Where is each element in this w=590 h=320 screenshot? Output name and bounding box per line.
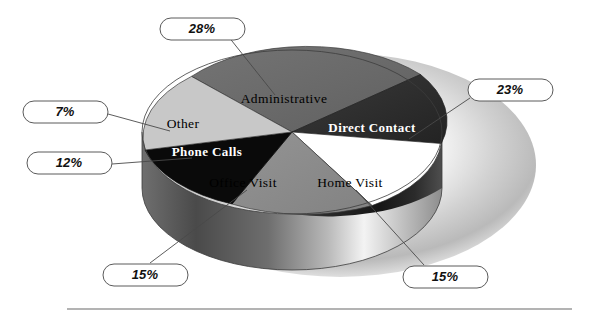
callout-administrative[interactable]: 28% [160, 18, 245, 40]
callout-value-direct-contact: 23% [496, 82, 524, 97]
callout-value-home-visit: 15% [432, 269, 459, 284]
slice-label-phone-calls: Phone Calls [172, 144, 243, 159]
chart-page: Administrative Direct Contact Other Phon… [0, 0, 590, 320]
callout-home-visit[interactable]: 15% [403, 266, 488, 288]
callout-direct-contact[interactable]: 23% [468, 79, 553, 101]
slice-label-administrative: Administrative [241, 91, 328, 106]
slice-label-other: Other [167, 116, 200, 131]
slice-label-home-visit: Home Visit [317, 175, 383, 190]
callout-value-office-visit: 15% [132, 267, 159, 282]
callout-other[interactable]: 7% [23, 101, 108, 123]
slice-label-direct-contact: Direct Contact [328, 120, 416, 135]
callout-phone-calls[interactable]: 12% [27, 152, 112, 174]
pie-chart-figure: Administrative Direct Contact Other Phon… [0, 0, 590, 320]
callout-value-phone-calls: 12% [56, 155, 83, 170]
callout-office-visit[interactable]: 15% [103, 264, 188, 286]
slice-label-office-visit: Office Visit [209, 175, 277, 190]
callout-value-other: 7% [55, 104, 74, 119]
callout-value-administrative: 28% [188, 21, 216, 36]
